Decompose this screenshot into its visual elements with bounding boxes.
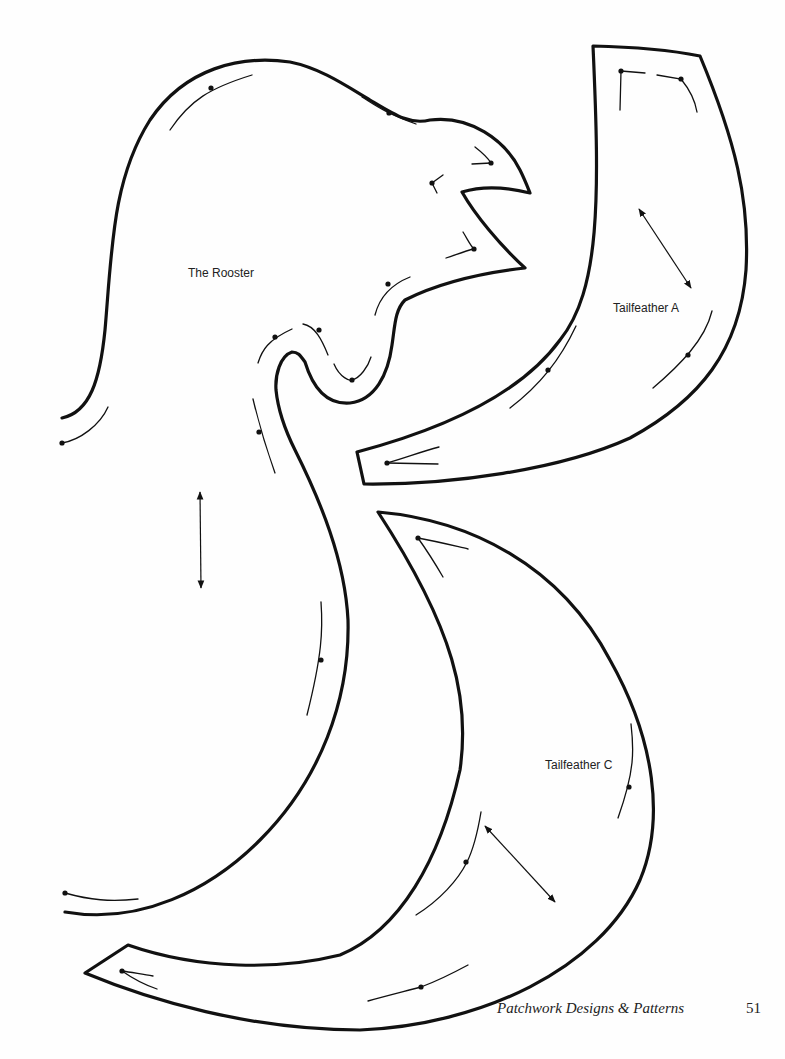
tailfeather-c-label: Tailfeather C [545, 758, 612, 772]
rooster-label: The Rooster [188, 266, 254, 280]
rooster-piece [59, 60, 530, 914]
rooster-outline [62, 60, 530, 914]
page-number: 51 [746, 1000, 761, 1017]
book-title-footer: Patchwork Designs & Patterns [497, 1000, 684, 1017]
tailfeather-a-label: Tailfeather A [613, 301, 679, 315]
book-page: The Rooster Tailfeather A Tailfeather C … [0, 0, 785, 1059]
tailfeather-a-outline [357, 46, 747, 484]
tailfeather-a-piece [357, 46, 747, 484]
pattern-drawing [0, 0, 785, 1059]
